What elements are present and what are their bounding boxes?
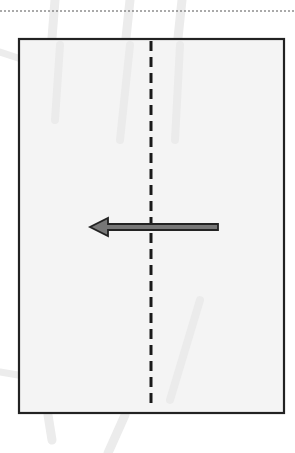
fold-diagram [0, 0, 295, 453]
